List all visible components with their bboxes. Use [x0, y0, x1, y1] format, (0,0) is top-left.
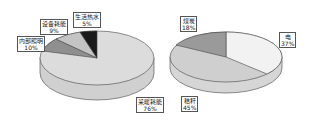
label-pct: 45% [183, 104, 196, 111]
label-name: 内部照明 [19, 37, 43, 44]
label-name: 生活热水 [75, 13, 99, 20]
label-pct: 18% [182, 24, 195, 31]
label-pct: 76% [138, 105, 162, 112]
label-heating: 采暖耗能 76% [136, 97, 164, 113]
label-name: 设备耗能 [42, 20, 66, 27]
label-straw: 秸秆 45% [181, 96, 198, 112]
label-electricity: 电 37% [279, 32, 296, 48]
label-pct: 10% [19, 44, 43, 51]
label-name: 秸秆 [183, 97, 196, 104]
pie-chart-left [40, 31, 154, 100]
label-coal: 煤炭 18% [180, 16, 197, 32]
label-name: 采暖耗能 [138, 98, 162, 105]
label-name: 电 [281, 33, 294, 40]
label-pct: 9% [42, 27, 66, 34]
label-name: 煤炭 [182, 17, 195, 24]
label-pct: 37% [281, 40, 294, 47]
pie-chart-right [170, 32, 282, 93]
label-lighting: 内部照明 10% [17, 36, 45, 52]
label-equipment: 设备耗能 9% [40, 19, 68, 35]
label-hot-water: 生活热水 5% [73, 12, 101, 28]
label-pct: 5% [75, 20, 99, 27]
